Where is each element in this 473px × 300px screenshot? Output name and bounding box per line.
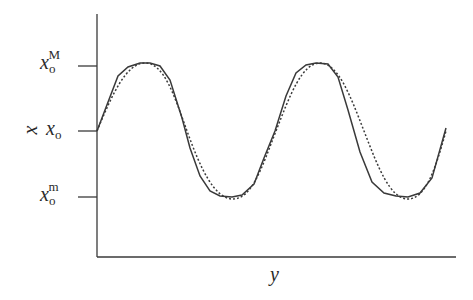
chart-canvas [0,0,473,300]
tick-label-mean-base: x [46,117,55,139]
tick-label-min-sup: m [48,179,58,194]
series-solid [97,63,446,197]
tick-label-max-sup: M [48,47,60,62]
tick-label-mean: xo [46,118,61,138]
tick-label-mean-sub: o [55,127,62,142]
series-dotted [97,63,446,199]
tick-label-min-sub: o [49,193,56,208]
tick-label-min: xom [40,184,58,204]
tick-label-max: xoM [40,52,59,72]
y-axis-label: x [20,126,40,135]
x-axis-label: y [270,264,279,284]
tick-label-max-sub: o [49,61,56,76]
